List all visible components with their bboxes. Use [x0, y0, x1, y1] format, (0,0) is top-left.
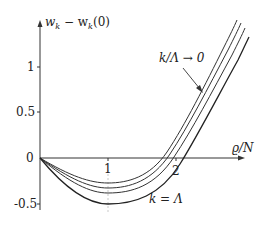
annotation-arrow-line [183, 68, 200, 89]
annotation-k-equals-lambda: k = Λ [149, 193, 183, 205]
y-tick-label-0.5: 0.5 [16, 106, 35, 118]
y-tick-label-0: 0 [26, 152, 34, 164]
x-axis-label: ϱ/N [232, 142, 254, 154]
x-axis-arrow-icon [238, 156, 245, 161]
annotation-k-over-lambda-to-0: k/Λ → 0 [159, 52, 204, 64]
x-tick-label-2: 2 [172, 165, 180, 177]
curve-intermediate-3 [40, 28, 245, 193]
x-tick-label-1: 1 [104, 163, 112, 175]
y-axis-label: wk − wk(0) [45, 16, 110, 31]
curve-intermediate-2 [40, 23, 241, 188]
y-label-minus: − w [60, 15, 88, 29]
curve-k-over-lambda-to-0 [40, 20, 237, 183]
y-label-w: w [45, 15, 55, 29]
y-tick-label--0.5: -0.5 [14, 198, 37, 210]
y-tick-label-1: 1 [27, 61, 35, 73]
y-axis-arrow-icon [38, 20, 43, 27]
chart-canvas [0, 0, 264, 225]
annotation-arrowhead-icon [196, 85, 203, 93]
y-label-end: (0) [93, 15, 110, 29]
